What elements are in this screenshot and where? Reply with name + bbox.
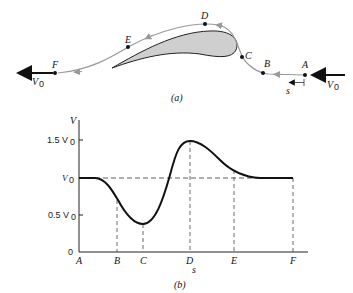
caption-a: (a) <box>171 92 183 104</box>
ytick-v0: V <box>62 173 69 183</box>
point-A: A <box>301 59 309 77</box>
y-axis-label: V <box>70 115 78 126</box>
x-axis-label: s <box>192 264 196 275</box>
ytick-1.5v0: 1.5 V <box>47 135 68 145</box>
svg-text:0: 0 <box>334 82 339 92</box>
svg-text:F: F <box>51 59 59 70</box>
xtick-F: F <box>289 255 297 266</box>
svg-text:D: D <box>200 10 209 21</box>
incoming-velocity-arrow: V 0 <box>314 75 345 92</box>
svg-text:E: E <box>124 34 131 45</box>
arc-length-indicator: s <box>286 79 304 96</box>
figure: V 0 V 0 s A B C D E F (a) <box>0 0 353 293</box>
ytick-0: 0 <box>68 247 73 257</box>
ytick-0.5v0: 0.5 V <box>48 210 69 220</box>
outgoing-velocity-arrow: V 0 <box>20 73 53 89</box>
point-guides <box>117 141 293 252</box>
caption-b: (b) <box>174 279 186 291</box>
xtick-B: B <box>114 255 120 266</box>
point-E: E <box>124 34 131 49</box>
diagram-canvas: V 0 V 0 s A B C D E F (a) <box>0 0 353 293</box>
xtick-A: A <box>75 255 83 266</box>
svg-text:0: 0 <box>69 175 74 185</box>
svg-text:C: C <box>245 50 252 61</box>
svg-text:0: 0 <box>39 79 44 89</box>
xtick-E: E <box>230 255 237 266</box>
svg-text:s: s <box>286 85 290 96</box>
svg-text:A: A <box>301 59 309 70</box>
svg-text:0: 0 <box>70 137 75 147</box>
svg-text:B: B <box>264 58 270 69</box>
velocity-chart: V 1.5 V 0 V 0 0.5 V 0 0 A B C D E F s <box>47 115 308 275</box>
xtick-C: C <box>140 255 147 266</box>
point-B: B <box>261 58 270 75</box>
svg-text:0: 0 <box>71 212 76 222</box>
velocity-curve <box>79 141 293 224</box>
point-C: C <box>240 50 252 61</box>
